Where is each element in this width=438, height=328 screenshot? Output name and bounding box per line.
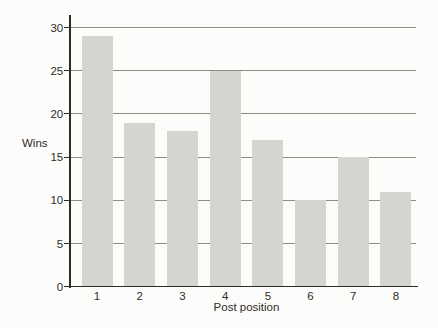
bar-post-6 [295, 200, 326, 287]
gridline-30 [70, 27, 416, 28]
bar-post-8 [380, 192, 411, 288]
gridline-25 [70, 70, 416, 71]
bar-post-5 [252, 140, 283, 288]
y-tick-label: 15 [41, 150, 63, 164]
bar-post-2 [124, 123, 155, 288]
gridline-20 [70, 113, 416, 114]
y-tick-label: 20 [41, 107, 63, 121]
bar-post-4 [210, 71, 241, 288]
x-axis-line [69, 286, 418, 288]
plot-area: 05101520253012345678 [0, 0, 438, 328]
bar-post-1 [82, 36, 113, 287]
y-tick-label: 25 [41, 64, 63, 78]
y-tick-label: 5 [41, 237, 63, 251]
y-tick-label: 30 [41, 21, 63, 35]
bar-post-7 [338, 157, 369, 287]
x-axis-title: Post position [73, 301, 420, 314]
y-tick-label: 0 [41, 280, 63, 294]
y-axis-line [69, 15, 71, 288]
bar-post-3 [167, 131, 198, 287]
bar-chart: Wins 05101520253012345678 Post position [0, 0, 438, 328]
y-tick-label: 10 [41, 193, 63, 207]
